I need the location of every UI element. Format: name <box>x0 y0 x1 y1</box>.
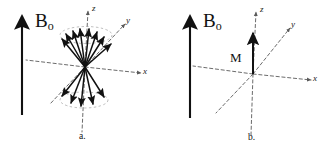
b0-label-a: Bo <box>35 11 54 30</box>
axis-label-z-a: z <box>92 4 96 13</box>
b0-subscript-a: o <box>48 19 54 33</box>
caption-a: a. <box>79 132 86 142</box>
caption-b: b. <box>248 133 255 143</box>
b0-label-b: Bo <box>203 11 222 30</box>
b0-symbol-a: B <box>35 10 48 31</box>
panel-a: Bo z y x a. <box>0 0 167 151</box>
axis-label-y-b: y <box>291 20 295 29</box>
b0-subscript-b: o <box>216 19 222 33</box>
figure-root: Bo z y x a. <box>0 0 335 151</box>
axis-label-y-a: y <box>126 16 130 25</box>
b0-symbol-b: B <box>203 10 216 31</box>
magnetization-label-b: M <box>230 51 242 64</box>
panel-a-graphic <box>0 0 167 151</box>
spin-vectors-down-a <box>62 67 104 106</box>
axis-label-x-b: x <box>313 74 317 83</box>
panel-b-graphic <box>168 0 335 151</box>
axis-label-x-a: x <box>143 67 147 76</box>
axis-label-z-b: z <box>260 5 264 14</box>
panel-b: Bo M z y x b. <box>168 0 335 151</box>
